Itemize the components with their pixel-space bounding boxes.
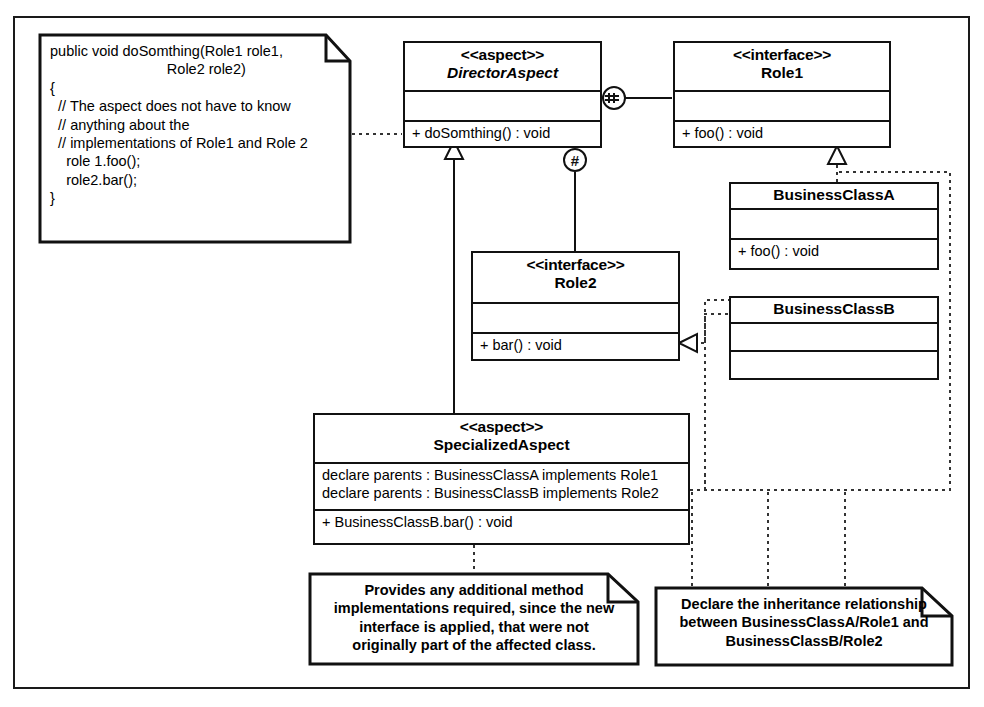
- class-name-specialized-aspect: SpecializedAspect: [319, 436, 684, 454]
- class-header-specialized-aspect: <<aspect>> SpecializedAspect: [315, 415, 688, 464]
- operations-specialized-aspect: + BusinessClassB.bar() : void: [315, 511, 688, 543]
- note-code-text: public void doSomthing(Role1 role1, Role…: [38, 33, 352, 214]
- class-name-role1: Role1: [679, 64, 885, 82]
- stereotype-role1: <<interface>>: [679, 46, 885, 64]
- note-code-snippet: public void doSomthing(Role1 role1, Role…: [38, 33, 352, 244]
- class-box-business-class-a[interactable]: BusinessClassA + foo() : void: [729, 182, 939, 270]
- declare-parents-line-2: declare parents : BusinessClassB impleme…: [322, 484, 683, 502]
- stereotype-role2: <<interface>>: [477, 256, 674, 274]
- class-box-business-class-b[interactable]: BusinessClassB: [729, 296, 939, 380]
- class-name-business-class-a: BusinessClassA: [735, 186, 933, 204]
- stereotype-director-aspect: <<aspect>>: [409, 46, 596, 64]
- declare-parents-line-1: declare parents : BusinessClassA impleme…: [322, 466, 683, 484]
- class-name-business-class-b: BusinessClassB: [735, 300, 933, 318]
- uml-diagram-canvas: public void doSomthing(Role1 role1, Role…: [0, 0, 984, 707]
- class-header-business-class-b: BusinessClassB: [731, 298, 937, 324]
- operations-business-class-b: [731, 352, 937, 378]
- class-header-director-aspect: <<aspect>> DirectorAspect: [405, 43, 600, 92]
- attributes-business-class-a: [731, 210, 937, 240]
- class-header-role2: <<interface>> Role2: [473, 253, 678, 304]
- operations-director-aspect: + doSomthing() : void: [405, 122, 600, 146]
- class-box-specialized-aspect[interactable]: <<aspect>> SpecializedAspect declare par…: [313, 413, 690, 545]
- attributes-director-aspect: [405, 92, 600, 122]
- declarations-specialized-aspect: declare parents : BusinessClassA impleme…: [315, 464, 688, 511]
- stereotype-specialized-aspect: <<aspect>>: [319, 418, 684, 436]
- attributes-role2: [473, 304, 678, 334]
- operations-business-class-a: + foo() : void: [731, 240, 937, 268]
- class-box-director-aspect[interactable]: <<aspect>> DirectorAspect + doSomthing()…: [403, 41, 602, 148]
- attributes-business-class-b: [731, 324, 937, 352]
- class-box-role2[interactable]: <<interface>> Role2 + bar() : void: [471, 251, 680, 361]
- operations-role1: + foo() : void: [675, 122, 889, 146]
- class-name-director-aspect: DirectorAspect: [409, 64, 596, 82]
- operations-role2: + bar() : void: [473, 334, 678, 359]
- class-header-role1: <<interface>> Role1: [675, 43, 889, 92]
- class-header-business-class-a: BusinessClassA: [731, 184, 937, 210]
- note-provides-text: Provides any additional method implement…: [308, 572, 640, 661]
- attributes-role1: [675, 92, 889, 122]
- note-declare-inheritance: Declare the inheritance relationship bet…: [654, 586, 954, 667]
- class-box-role1[interactable]: <<interface>> Role1 + foo() : void: [673, 41, 891, 148]
- note-declare-text: Declare the inheritance relationship bet…: [654, 586, 954, 656]
- class-name-role2: Role2: [477, 274, 674, 292]
- note-provides-implementations: Provides any additional method implement…: [308, 572, 640, 666]
